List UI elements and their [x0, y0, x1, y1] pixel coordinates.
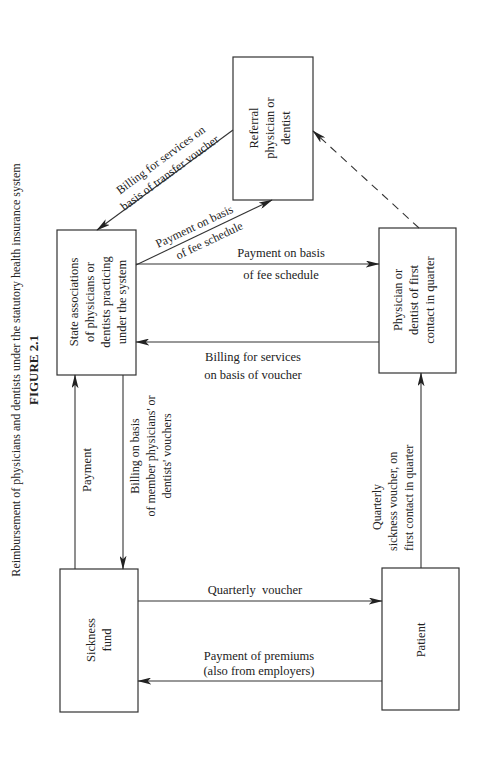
node-referral-line-2: physician or: [263, 96, 277, 158]
edge-billing-voucher: Billing for services on basis of voucher: [136, 342, 379, 382]
node-sickness-fund: Sickness fund: [60, 569, 138, 712]
edge-premiums-line-2: (also from employers): [203, 664, 314, 678]
edge-quarterly-voucher: Quarterly voucher: [138, 583, 382, 601]
edge-quarterly-sickness-line-3: first contact in quarter: [402, 445, 416, 551]
edge-quarterly-sickness-line-2: sickness voucher, on: [386, 452, 400, 551]
node-physician-line-3: contact in quarter: [423, 255, 437, 343]
edge-billing-member-line-2: of member physicians' or: [144, 395, 158, 516]
node-fund-line-1: Sickness: [84, 618, 98, 662]
edge-referral-dashed: [313, 131, 419, 228]
node-patient-line-1: Patient: [414, 622, 428, 657]
edge-quarterly-sickness-line-1: Quarterly: [370, 484, 384, 530]
edge-payment-fee-physician-line-2: of fee schedule: [243, 268, 319, 282]
edge-payment-fund: Payment: [75, 375, 94, 569]
node-referral: Referral physician or dentist: [233, 57, 313, 200]
edge-billing-member: Billing on basis of member physicians' o…: [123, 375, 174, 569]
node-referral-line-3: dentist: [279, 111, 293, 145]
figure-caption: Reimbursement of physicians and dentists…: [9, 163, 23, 577]
node-fund-line-2: fund: [100, 628, 114, 652]
edge-payment-fee-physician: Payment on basis of fee schedule: [136, 246, 379, 282]
node-physician-line-2: dentist of first: [407, 264, 421, 335]
node-state-line-1: State associations: [67, 258, 81, 347]
edge-payment-fee-physician-line-1: Payment on basis: [237, 246, 325, 260]
node-physician-first-contact: Physician or dentist of first contact in…: [379, 228, 456, 373]
edge-premiums: Payment of premiums (also from employers…: [138, 649, 382, 681]
edge-billing-voucher-line-2: on basis of voucher: [204, 368, 302, 382]
edge-billing-member-line-1: Billing on basis: [128, 418, 142, 494]
edge-quarterly-voucher-label: Quarterly voucher: [208, 583, 303, 597]
diagram-canvas: FIGURE 2.1 Reimbursement of physicians a…: [0, 0, 488, 763]
node-state-line-4: under the system: [115, 259, 129, 344]
node-state-associations: State associations of physicians or dent…: [57, 230, 136, 375]
edge-quarterly-sickness: Quarterly sickness voucher, on first con…: [370, 373, 421, 568]
edge-payment-fund-label: Payment: [80, 448, 94, 492]
figure-number: FIGURE 2.1: [26, 335, 41, 405]
node-patient: Patient: [382, 568, 459, 710]
edge-premiums-line-1: Payment of premiums: [204, 649, 315, 663]
node-referral-line-1: Referral: [247, 107, 261, 148]
edge-billing-member-line-3: dentists' vouchers: [160, 413, 174, 498]
node-state-line-2: of physicians or: [83, 261, 97, 342]
edge-billing-voucher-line-1: Billing for services: [205, 350, 301, 364]
node-physician-line-1: Physician or: [391, 268, 405, 331]
node-state-line-3: dentists practicing: [99, 256, 113, 348]
